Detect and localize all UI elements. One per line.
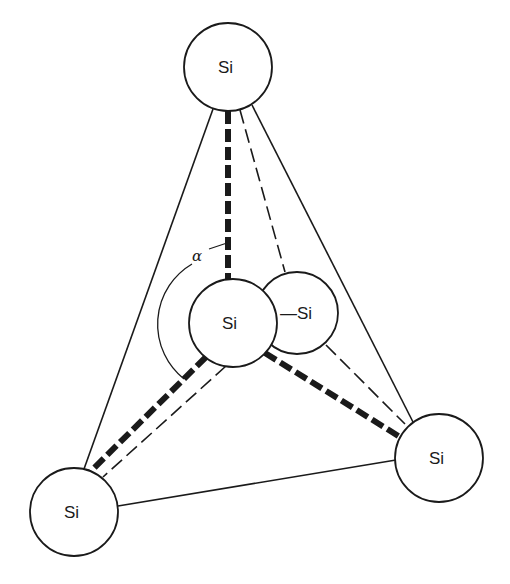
- atom-center: Si: [189, 279, 277, 367]
- atom-bottom-right-label: Si: [429, 449, 444, 468]
- angle-alpha-label: α: [192, 247, 202, 265]
- angle-arc: [158, 264, 192, 379]
- atom-bottom-left-label: Si: [64, 503, 79, 522]
- atom-back-label: —Si: [280, 304, 312, 323]
- bond-back-top: [240, 110, 285, 272]
- atom-bottom-right: Si: [395, 414, 483, 502]
- bond-back-bottom-left: [103, 366, 226, 477]
- atom-center-label: Si: [222, 314, 237, 333]
- bond-center-bottom-left: [90, 357, 206, 472]
- atom-top: Si: [184, 23, 272, 111]
- atom-top-label: Si: [218, 58, 233, 77]
- silicon-tetrahedron-diagram: α —Si Si Si Si Si: [0, 0, 510, 584]
- edge-bottom-left-bottom-right: [118, 460, 396, 506]
- bond-center-bottom-right: [265, 353, 400, 437]
- atom-bottom-left: Si: [30, 468, 118, 556]
- edge-top-bottom-right: [252, 105, 413, 422]
- angle-leader-line: [209, 243, 227, 249]
